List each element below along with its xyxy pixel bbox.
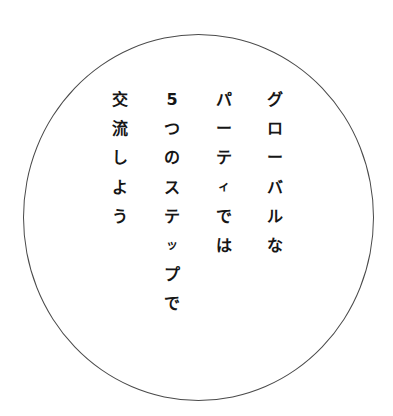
circle-frame	[23, 34, 374, 401]
char: で	[158, 289, 186, 318]
char: バ	[261, 173, 289, 202]
char: ー	[261, 143, 289, 172]
char: ロ	[261, 114, 289, 143]
char: 交	[106, 85, 134, 114]
char: で	[210, 202, 238, 231]
char: パ	[210, 85, 238, 114]
char: 5	[158, 85, 186, 114]
char: ル	[261, 202, 289, 231]
text-column-1: グ ロ ー バ ル な	[261, 85, 289, 260]
char: よ	[106, 173, 134, 202]
char: ー	[210, 114, 238, 143]
char: の	[158, 143, 186, 172]
char: つ	[158, 114, 186, 143]
char: は	[210, 231, 238, 260]
char: プ	[158, 260, 186, 289]
char: な	[261, 231, 289, 260]
char: ッ	[158, 231, 186, 260]
char: し	[106, 143, 134, 172]
char: ィ	[210, 173, 238, 202]
text-column-3: 5 つ の ス テ ッ プ で	[158, 85, 186, 319]
char: ス	[158, 173, 186, 202]
char: 流	[106, 114, 134, 143]
char: グ	[261, 85, 289, 114]
text-column-2: パ ー テ ィ で は	[210, 85, 238, 260]
char: テ	[158, 202, 186, 231]
text-column-4: 交 流 し よ う	[106, 85, 134, 231]
char: う	[106, 202, 134, 231]
char: テ	[210, 143, 238, 172]
